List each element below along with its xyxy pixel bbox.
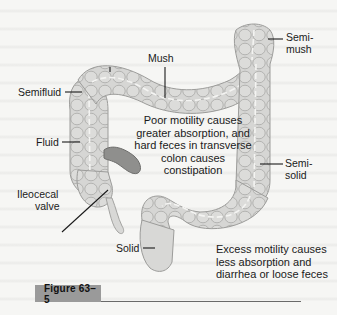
label-solid: Solid	[116, 242, 139, 254]
label-semi-mush-line1: Semi-	[286, 31, 313, 43]
note-poor-motility: Poor motility causes greater absorption,…	[118, 114, 268, 177]
label-semi-solid-line2: solid	[285, 169, 307, 181]
figure-rule	[101, 301, 301, 302]
note-poor-motility-line: colon causes	[118, 152, 268, 165]
note-excess-motility-line: diarrhea or loose feces	[216, 268, 337, 281]
label-mush: Mush	[148, 52, 174, 64]
label-semi-mush-line2: mush	[286, 43, 312, 55]
label-ileocecal-line1: Ileocecal	[17, 188, 58, 200]
label-semifluid: Semifluid	[18, 86, 61, 98]
note-poor-motility-line: greater absorption, and	[118, 127, 268, 140]
label-semi-solid-line1: Semi-	[285, 157, 312, 169]
note-excess-motility-line: Excess motility causes	[216, 243, 337, 256]
cecum	[77, 170, 124, 234]
note-poor-motility-line: constipation	[118, 164, 268, 177]
figure-label: Figure 63–5	[35, 285, 101, 302]
note-excess-motility-line: less absorption and	[216, 256, 337, 269]
note-poor-motility-line: Poor motility causes	[118, 114, 268, 127]
label-fluid: Fluid	[36, 136, 59, 148]
appendix	[106, 198, 124, 234]
note-excess-motility: Excess motility causes less absorption a…	[216, 243, 337, 281]
label-ileocecal-line2: valve	[35, 200, 60, 212]
note-poor-motility-line: hard feces in transverse	[118, 139, 268, 152]
